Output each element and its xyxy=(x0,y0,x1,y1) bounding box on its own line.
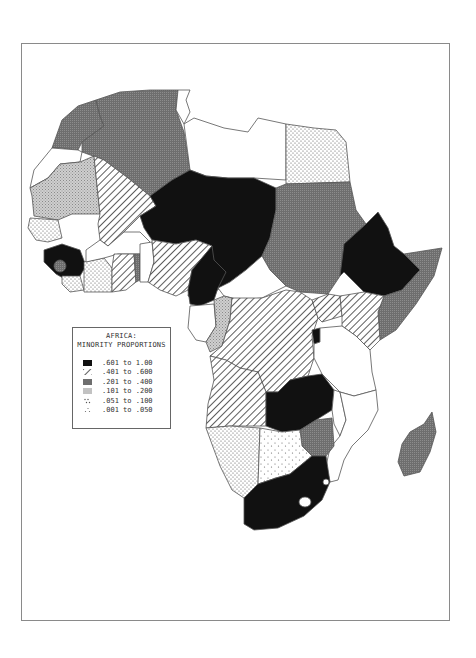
legend-row: .101 to .200 xyxy=(73,387,170,397)
legend-row: .601 to 1.00 xyxy=(73,358,170,368)
crosshatch-swatch-icon xyxy=(83,388,92,394)
dense-gray-swatch-icon xyxy=(83,379,92,385)
legend-title-line2: MINORITY PROPORTIONS xyxy=(73,341,170,350)
map-legend: AFRICA: MINORITY PROPORTIONS .601 to 1.0… xyxy=(72,327,171,429)
country-swaziland xyxy=(323,479,329,485)
legend-range: .601 to 1.00 xyxy=(102,359,153,367)
legend-range: .101 to .200 xyxy=(102,387,153,395)
country-senegal xyxy=(28,218,62,242)
legend-row: .051 to .100 xyxy=(73,396,170,406)
solid-black-swatch-icon xyxy=(83,360,92,366)
country-sierra-leone xyxy=(54,260,66,272)
country-lesotho xyxy=(299,497,311,507)
legend-row: .201 to .400 xyxy=(73,377,170,387)
country-libya xyxy=(184,118,286,180)
dots-swatch-icon xyxy=(83,398,92,404)
sparse-dots-swatch-icon xyxy=(83,407,92,413)
legend-row: .401 to .600 xyxy=(73,368,170,378)
legend-range: .201 to .400 xyxy=(102,378,153,386)
diagonal-hatch-swatch-icon xyxy=(83,369,92,375)
legend-range: .051 to .100 xyxy=(102,397,153,405)
country-egypt xyxy=(286,124,350,184)
country-liberia xyxy=(62,276,84,292)
country-rwanda-burundi xyxy=(312,328,320,344)
legend-range: .401 to .600 xyxy=(102,368,153,376)
country-ivory-coast xyxy=(84,258,112,292)
legend-row: .001 to .050 xyxy=(73,406,170,416)
legend-title-line1: AFRICA: xyxy=(73,332,170,341)
country-ghana xyxy=(112,254,136,292)
legend-range: .001 to .050 xyxy=(102,406,153,414)
country-namibia xyxy=(206,426,260,498)
country-madagascar xyxy=(398,412,436,476)
legend-title: AFRICA: MINORITY PROPORTIONS xyxy=(73,332,170,350)
